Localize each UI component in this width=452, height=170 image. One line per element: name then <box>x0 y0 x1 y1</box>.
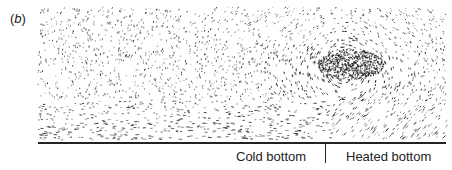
cold-bottom-label: Cold bottom <box>236 149 306 164</box>
cold-heated-divider <box>325 143 326 163</box>
heated-bottom-label: Heated bottom <box>346 149 431 164</box>
bottom-boundary-line <box>38 142 446 144</box>
particle-streak-field <box>0 0 452 170</box>
